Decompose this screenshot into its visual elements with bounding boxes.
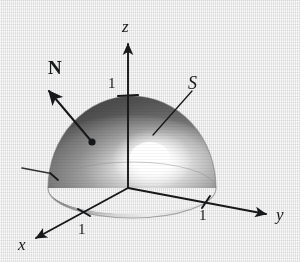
y-axis [128, 188, 266, 214]
z-axis-tick-1 [118, 95, 138, 96]
surface-label: S [188, 74, 197, 92]
y-axis-label: y [276, 206, 284, 223]
normal-vector-label: N [48, 58, 62, 77]
hemisphere-cap [48, 96, 216, 190]
z-axis-label: z [122, 18, 129, 35]
z-axis-tick-label-1: 1 [108, 76, 116, 91]
x-axis-label: x [18, 236, 26, 253]
y-axis-tick-label-1: 1 [199, 208, 207, 223]
hemisphere-normal-vector-figure: z y x 1 1 1 N S [0, 0, 300, 262]
x-axis-tick-label-1: 1 [78, 222, 86, 237]
diagram-canvas [0, 0, 300, 262]
